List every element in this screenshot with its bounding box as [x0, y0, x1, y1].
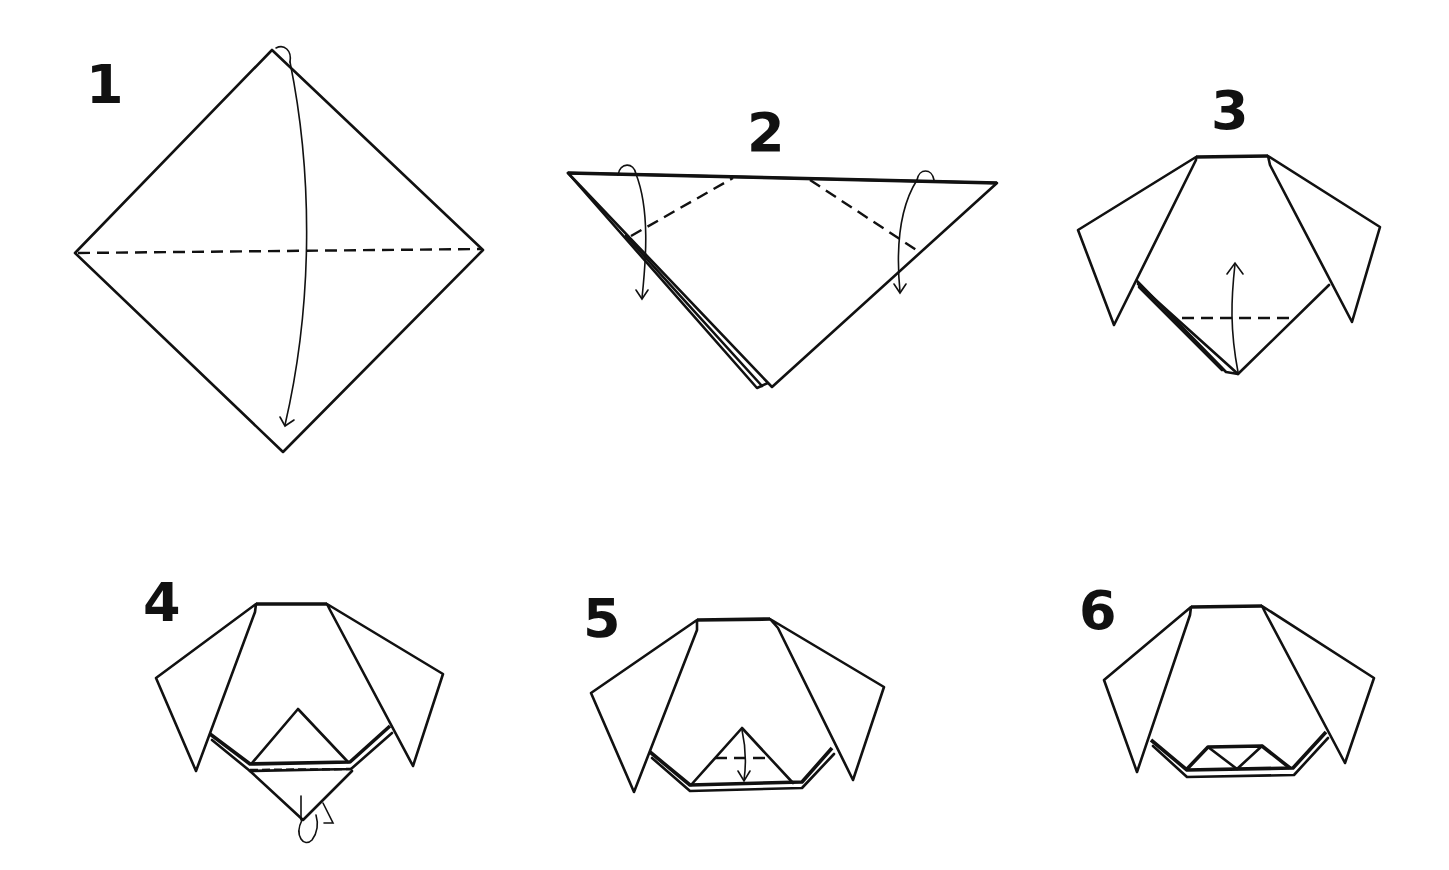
folded-triangle [568, 173, 997, 387]
mountain-fold-line [250, 769, 352, 770]
origami-diagram: 1 2 3 4 5 6 [0, 0, 1449, 870]
step-2-diagram [568, 165, 997, 388]
step-1-diagram [75, 47, 483, 452]
left-ear [591, 620, 697, 792]
left-ear [156, 604, 256, 771]
left-ear [1104, 607, 1191, 772]
step-4-diagram [156, 604, 443, 843]
left-ear [1078, 157, 1196, 325]
fold-down-arrow-icon [738, 730, 750, 781]
right-ear [1268, 156, 1380, 322]
right-ear [327, 604, 443, 766]
front-chin-edge [1138, 284, 1329, 374]
head-top-edge [1196, 156, 1268, 157]
back-chin-edge-inner [1139, 287, 1222, 370]
step-6-diagram [1104, 606, 1374, 777]
diagram-canvas [0, 0, 1449, 870]
chin-band-inner [212, 733, 392, 771]
step-5-diagram [591, 619, 884, 792]
valley-fold-line [78, 249, 481, 253]
head-top-edge [1191, 606, 1262, 607]
head-top-edge [697, 619, 770, 620]
step-3-diagram [1078, 156, 1380, 374]
chin-band-outer [1151, 732, 1326, 770]
nose-trapezoid [1187, 746, 1290, 769]
folded-flap-triangle [252, 709, 348, 763]
fold-arrow-icon [276, 47, 307, 426]
nose-inner-triangle [1208, 746, 1262, 769]
chin-band-inner [652, 754, 834, 791]
